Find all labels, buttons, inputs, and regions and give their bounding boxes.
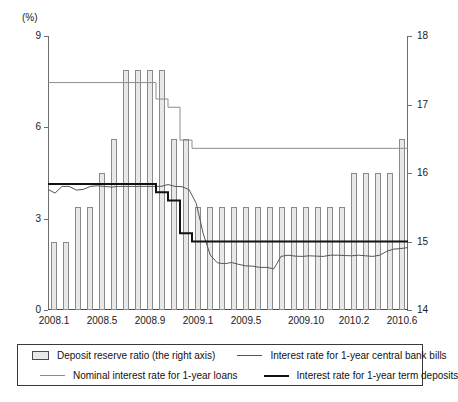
line-term-deposit-rate <box>48 184 408 242</box>
right-axis-tick-label: 14 <box>417 305 428 315</box>
x-axis-tick-label: 2010.6 <box>387 315 418 326</box>
right-axis-tick-label: 17 <box>417 100 428 110</box>
x-axis-tick-label: 2009.5 <box>231 315 262 326</box>
left-axis-tick-label: 3 <box>35 214 41 224</box>
line-nominal-loan-rate <box>48 83 408 149</box>
x-axis-tick-label: 2008.9 <box>135 315 166 326</box>
legend-item-central-bank-bills: Interest rate for 1-year central bank bi… <box>237 350 446 361</box>
line-central-bank-bills-rate <box>48 185 408 269</box>
legend-label-term-deposit-rate: Interest rate for 1-year term deposits <box>297 370 458 381</box>
left-axis-tick-label: 0 <box>35 305 41 315</box>
legend-label-nominal-loan-rate: Nominal interest rate for 1-year loans <box>73 370 238 381</box>
legend-item-nominal-loan-rate: Nominal interest rate for 1-year loans <box>40 370 238 381</box>
legend-label-central-bank-bills: Interest rate for 1-year central bank bi… <box>270 350 446 361</box>
right-axis-tick-label: 15 <box>417 237 428 247</box>
line-series-overlay <box>48 36 408 310</box>
x-axis-tick-label: 2010.2 <box>339 315 370 326</box>
legend-swatch-line-cbbills-icon <box>237 355 262 356</box>
legend-swatch-bar-icon <box>32 351 49 360</box>
legend-swatch-line-deposits-icon <box>264 375 289 377</box>
right-axis-tick-label: 18 <box>417 31 428 41</box>
legend-swatch-line-loans-icon <box>40 375 65 376</box>
left-axis-tick-label: 9 <box>35 31 41 41</box>
chart-legend: Deposit reserve ratio (the right axis) I… <box>17 344 423 386</box>
y-axis-unit-label: (%) <box>22 12 38 23</box>
legend-item-term-deposit-rate: Interest rate for 1-year term deposits <box>264 370 458 381</box>
x-axis-tick-label: 2008.1 <box>39 315 70 326</box>
legend-item-deposit-reserve-ratio: Deposit reserve ratio (the right axis) <box>32 350 215 361</box>
right-axis-tick-label: 16 <box>417 168 428 178</box>
x-axis-tick-label: 2009.1 <box>183 315 214 326</box>
legend-label-deposit-reserve-ratio: Deposit reserve ratio (the right axis) <box>57 350 215 361</box>
right-axis-tick <box>407 310 412 311</box>
plot-area: 0369 1415161718 2008.12008.52008.92009.1… <box>48 36 408 310</box>
x-axis-tick-label: 2009.10 <box>288 315 324 326</box>
x-axis-tick-label: 2008.5 <box>87 315 118 326</box>
left-axis-tick-label: 6 <box>35 122 41 132</box>
left-axis-tick <box>44 310 48 311</box>
